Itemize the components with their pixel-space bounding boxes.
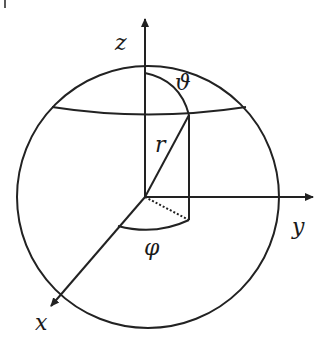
phi-label: φ: [144, 235, 160, 260]
radius-label: r: [155, 132, 167, 157]
x-axis: [51, 197, 145, 306]
theta-label: ϑ: [175, 70, 191, 95]
x-axis-label: x: [35, 310, 48, 335]
spherical-coordinates-diagram: z y x r ϑ φ: [0, 0, 327, 344]
latitude-circle: [52, 107, 246, 115]
projection-xy: [145, 197, 189, 220]
radius-vector: [145, 115, 189, 197]
phi-arc: [118, 220, 189, 230]
z-axis-label: z: [114, 30, 127, 55]
y-axis-label: y: [291, 214, 305, 239]
